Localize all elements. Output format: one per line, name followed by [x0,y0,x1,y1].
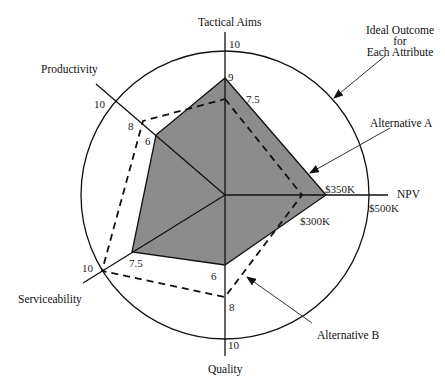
alternative-a-arrow [310,128,390,173]
tick-quality-max: 10 [228,340,239,351]
tick-prod-a: 6 [145,136,151,147]
alternative-b-label: Alternative B [317,329,379,341]
tick-quality-b: 8 [229,302,235,313]
alternative-b-arrow [247,277,312,323]
tick-tactical-max: 10 [229,39,240,50]
axis-label-productivity: Productivity [41,63,98,75]
alternative-a-polygon [132,78,326,265]
ideal-line-3: Each Attribute [345,47,445,58]
tick-npv-a: $350K [325,184,355,195]
tick-npv-max: $500K [369,203,399,214]
tick-prod-max: 10 [94,99,105,110]
ideal-outcome-label: Ideal Outcome for Each Attribute [345,25,445,58]
tick-tactical-b: 7.5 [246,94,260,105]
axis-label-serviceability: Serviceability [18,293,82,305]
axis-label-quality: Quality [208,363,243,375]
tick-npv-b: $300K [300,216,330,227]
axis-label-tactical: Tactical Aims [198,16,261,28]
tick-serv-max: 10 [82,263,93,274]
axis-label-npv: NPV [397,188,420,200]
tick-quality-a: 6 [211,271,217,282]
tick-prod-b: 8 [128,121,134,132]
tick-tactical-a: 9 [228,72,234,83]
alternative-a-label: Alternative A [370,117,432,129]
tick-serv-a: 7.5 [129,258,143,269]
ideal-outcome-arrow [334,56,385,98]
